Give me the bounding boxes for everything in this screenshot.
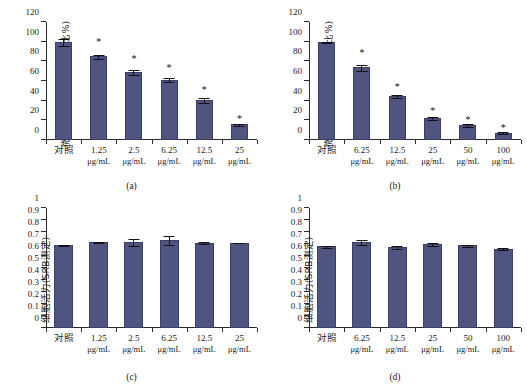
x-axis-tick-label: 12.5μg/mL <box>380 145 415 166</box>
bar <box>124 242 143 328</box>
error-bar-cap-bottom <box>128 246 139 247</box>
x-axis-tick-label: 1.25μg/mL <box>81 333 116 354</box>
concentration-value: 50 <box>450 333 485 344</box>
y-axis-tick-label: 0.7 <box>291 229 302 239</box>
y-axis-tick-label: 0 <box>35 313 40 323</box>
concentration-value: 2.5 <box>116 333 151 344</box>
plot-area: 020406080100120***** <box>309 22 521 140</box>
error-bar <box>164 236 175 247</box>
x-axis-tick <box>46 140 47 144</box>
bar <box>195 243 214 328</box>
error-bar <box>199 98 210 104</box>
concentration-value: 对照 <box>46 333 81 344</box>
significance-marker: * <box>430 108 435 114</box>
x-axis-tick <box>257 140 258 144</box>
x-axis-tick-label: 25μg/mL <box>222 145 257 166</box>
error-bar-cap-top <box>356 65 367 66</box>
bar <box>317 246 336 328</box>
bar-group <box>309 22 344 140</box>
bar-series: ***** <box>46 22 257 140</box>
y-axis-tick-label: 0.5 <box>291 253 302 263</box>
concentration-value: 25 <box>222 145 257 156</box>
bar-group: * <box>486 22 521 140</box>
concentration-value: 12.5 <box>380 145 415 156</box>
x-axis-tick-label: 100μg/mL <box>486 333 521 354</box>
y-axis-tick-label: 0 <box>35 125 40 135</box>
figure-multipanel-bar-charts: 微球体形成(与对照组相比%)020406080100120*****对照1.25… <box>0 0 527 384</box>
error-bar <box>462 124 473 128</box>
y-axis-tick-label: 0.8 <box>28 217 39 227</box>
x-axis-tick-label: 6.25μg/mL <box>152 145 187 166</box>
y-axis-tick-label: 120 <box>289 7 303 17</box>
error-bar-cap-bottom <box>392 98 403 99</box>
bar-group <box>486 208 521 328</box>
y-axis-tick-label: 40 <box>30 86 39 96</box>
bar <box>230 243 249 328</box>
error-bar-cap-top <box>427 243 438 244</box>
concentration-value: 对照 <box>309 333 344 344</box>
bar-group <box>222 208 257 328</box>
concentration-value: 100 <box>486 333 521 344</box>
concentration-unit: μg/mL <box>450 156 485 167</box>
x-axis-tick <box>81 328 82 332</box>
x-axis-tick <box>415 140 416 144</box>
y-axis-tick-label: 60 <box>30 66 39 76</box>
error-bar-cap-bottom <box>356 71 367 72</box>
bar-series <box>46 208 257 328</box>
x-axis-labels: 对照6.25μg/mL12.5μg/mL25μg/mL50μg/mL100μg/… <box>309 333 521 354</box>
error-bar-cap-bottom <box>498 134 509 135</box>
panel-c: 细胞活力(SRB测定)00.10.20.30.40.50.60.70.80.91… <box>0 192 263 384</box>
x-axis-tick <box>187 328 188 332</box>
x-axis-tick <box>116 328 117 332</box>
error-bar-cap-top <box>356 240 367 241</box>
bar: * <box>231 124 248 140</box>
error-bar <box>234 243 245 244</box>
error-bar-cap-bottom <box>392 249 403 250</box>
error-bar <box>356 65 367 72</box>
error-bar-cap-top <box>128 239 139 240</box>
x-axis-tick <box>187 140 188 144</box>
significance-marker: * <box>359 50 364 56</box>
significance-marker: * <box>395 84 400 90</box>
y-axis-tick-label: 0 <box>298 125 303 135</box>
y-axis-tick-label: 1 <box>35 193 40 203</box>
x-axis-tick-label: 对照 <box>46 333 81 354</box>
x-axis-tick-label: 6.25μg/mL <box>344 333 379 354</box>
bar-group: * <box>380 22 415 140</box>
x-axis-tick <box>344 328 345 332</box>
x-axis-tick <box>81 140 82 144</box>
error-bar <box>427 117 438 121</box>
bar: * <box>424 118 441 140</box>
x-axis-tick-label: 25μg/mL <box>222 333 257 354</box>
concentration-value: 6.25 <box>152 145 187 156</box>
bar-group: * <box>222 22 257 140</box>
bar-group <box>344 208 379 328</box>
concentration-value: 1.25 <box>81 333 116 344</box>
x-axis-tick-label: 12.5μg/mL <box>187 333 222 354</box>
error-bar-cap-top <box>164 78 175 79</box>
concentration-value: 12.5 <box>380 333 415 344</box>
bar-group: * <box>152 22 187 140</box>
x-axis-tick-label: 2.5μg/mL <box>116 333 151 354</box>
error-bar <box>164 78 175 83</box>
error-bar-cap-bottom <box>427 246 438 247</box>
significance-marker: * <box>96 39 101 45</box>
error-bar-cap-bottom <box>462 247 473 248</box>
y-axis-tick-label: 80 <box>293 46 302 56</box>
error-bar-cap-bottom <box>199 244 210 245</box>
y-axis-tick-label: 0.6 <box>28 241 39 251</box>
x-axis-tick <box>152 328 153 332</box>
significance-marker: * <box>501 125 506 131</box>
bar <box>423 244 442 328</box>
bar <box>160 240 179 328</box>
error-bar <box>93 55 104 60</box>
error-bar <box>356 240 367 246</box>
x-axis-tick <box>415 328 416 332</box>
bar-series <box>309 208 521 328</box>
bar: * <box>495 133 512 140</box>
error-bar <box>58 245 69 247</box>
concentration-unit: μg/mL <box>486 344 521 355</box>
error-bar-cap-top <box>498 248 509 249</box>
concentration-value: 6.25 <box>344 333 379 344</box>
significance-marker: * <box>167 65 172 71</box>
